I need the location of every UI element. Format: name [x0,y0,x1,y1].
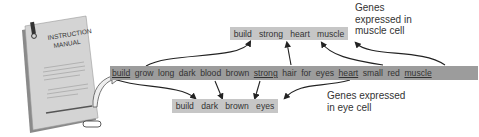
gene-word: strong [254,68,278,78]
muscle-label-line: muscle cell [355,25,412,37]
eye-cell-label: Genes expressed in eye cell [327,90,405,113]
gene-word: blood [200,68,221,78]
eye-gene: dark [201,101,218,111]
eye-gene: build [176,101,194,111]
gene-word: heart [339,68,359,78]
eye-label-line: in eye cell [327,102,405,114]
gene-word: grow [135,68,154,78]
gene-word: for [301,68,311,78]
arrow-dark-to-eye [215,81,222,98]
gene-word: dark [179,68,196,78]
arrow-build-to-eye [117,80,195,98]
arrow-strong-to-muscle [287,43,291,65]
gene-word: brown [226,68,249,78]
muscle-gene: build [234,29,252,39]
arrow-brown-to-eye [255,81,260,98]
muscle-label-line: Genes [355,2,412,14]
muscle-gene: strong [259,29,283,39]
eye-label-line: Genes expressed [327,90,405,102]
muscle-cell-gene-bar: build strong heart muscle [230,27,348,40]
eye-gene: eyes [256,101,274,111]
arrow-build-to-muscle [146,42,250,66]
arrow-muscle-to-muscle [356,43,445,65]
gene-word: red [387,68,399,78]
gene-word: long [158,68,174,78]
muscle-gene: muscle [317,29,344,39]
eye-gene: brown [225,101,248,111]
main-gene-sequence-bar: build grow long dark blood brown strong … [110,66,478,80]
gene-word: muscle [404,68,431,78]
gene-word: hair [282,68,296,78]
gene-word: small [363,68,383,78]
gene-word: build [112,68,130,78]
gene-word: eyes [316,68,334,78]
muscle-gene: heart [290,29,310,39]
muscle-label-line: expressed in [355,14,412,26]
muscle-cell-label: Genes expressed in muscle cell [355,2,412,37]
eye-cell-gene-bar: build dark brown eyes [172,99,278,113]
arrow-heart-to-muscle [322,43,383,65]
